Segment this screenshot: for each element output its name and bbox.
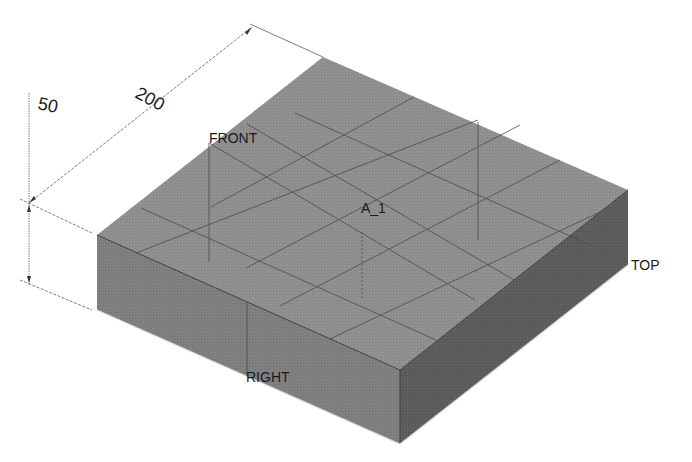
datum-axis-label[interactable]: A_1 — [361, 200, 386, 216]
solid-block[interactable] — [97, 57, 628, 444]
dimension-length-label[interactable]: 200 — [132, 83, 168, 115]
cad-viewport[interactable]: 50 200 FRONT A_1 TOP RIGHT — [0, 0, 692, 462]
datum-top-label[interactable]: TOP — [631, 257, 660, 273]
dimension-height-label[interactable]: 50 — [36, 93, 60, 117]
datum-right-label[interactable]: RIGHT — [246, 369, 290, 385]
datum-front-label[interactable]: FRONT — [209, 130, 258, 146]
